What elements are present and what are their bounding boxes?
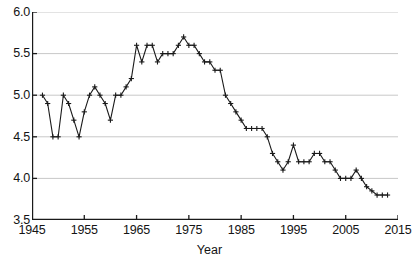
figure: 3.54.04.55.05.56.0 194519551965197519851… <box>0 0 419 269</box>
x-tick-label: 1975 <box>175 224 202 237</box>
x-axis-title: Year <box>0 244 419 257</box>
x-tick-label: 1985 <box>228 224 255 237</box>
caption-sliver <box>30 263 390 269</box>
x-tick-label: 1995 <box>280 224 307 237</box>
x-tick-label: 1945 <box>18 224 45 237</box>
x-tick-label: 2005 <box>332 224 359 237</box>
x-tick-label: 1955 <box>71 224 98 237</box>
x-tick-label: 1965 <box>123 224 150 237</box>
x-tick-label: 2015 <box>384 224 411 237</box>
x-axis-tick-labels: 19451955196519751985199520052015 <box>0 0 419 269</box>
